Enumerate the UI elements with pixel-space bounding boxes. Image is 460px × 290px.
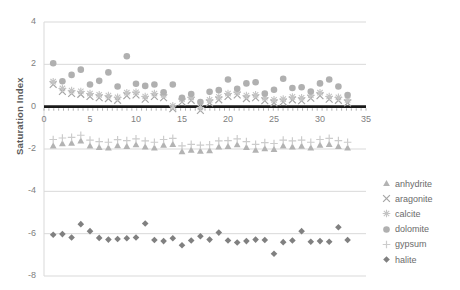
data-point bbox=[224, 137, 232, 145]
data-point bbox=[59, 85, 67, 93]
data-point bbox=[335, 137, 343, 145]
data-point bbox=[280, 75, 287, 82]
data-point bbox=[133, 234, 140, 241]
data-point bbox=[59, 134, 67, 142]
y-tick-label: -2 bbox=[14, 143, 36, 153]
data-point bbox=[252, 141, 260, 149]
legend-item-aragonite[interactable]: aragonite bbox=[380, 191, 458, 206]
data-point bbox=[289, 237, 296, 244]
data-point bbox=[335, 94, 343, 102]
data-point bbox=[271, 250, 278, 257]
data-point bbox=[344, 237, 351, 244]
legend-item-dolomite[interactable]: dolomite bbox=[380, 222, 458, 237]
data-point bbox=[160, 136, 168, 144]
data-point bbox=[308, 88, 315, 95]
data-point bbox=[124, 53, 131, 60]
data-point bbox=[114, 94, 122, 102]
y-tick-label: -4 bbox=[14, 185, 36, 195]
legend-item-label: dolomite bbox=[395, 224, 429, 234]
data-point bbox=[243, 92, 251, 100]
data-point bbox=[271, 86, 278, 93]
legend-item-label: aragonite bbox=[395, 194, 433, 204]
data-point bbox=[225, 76, 232, 83]
data-point bbox=[335, 83, 342, 90]
data-point bbox=[307, 138, 315, 146]
data-point bbox=[317, 238, 324, 245]
legend-item-label: anhydrite bbox=[395, 179, 432, 189]
data-point bbox=[132, 88, 140, 96]
data-point bbox=[326, 238, 333, 245]
data-point bbox=[78, 66, 85, 73]
series-halite bbox=[50, 220, 351, 257]
x-tick-label: 0 bbox=[33, 114, 55, 124]
x-tick-label: 10 bbox=[125, 114, 147, 124]
data-point bbox=[142, 83, 149, 90]
legend-item-gypsum[interactable]: gypsum bbox=[380, 237, 458, 252]
data-point bbox=[59, 78, 66, 85]
data-point bbox=[49, 78, 57, 86]
data-point bbox=[383, 241, 391, 249]
data-point bbox=[206, 236, 213, 243]
legend-item-anhydrite[interactable]: anhydrite bbox=[380, 176, 458, 191]
series-dolomite bbox=[50, 53, 351, 105]
data-point bbox=[59, 231, 66, 238]
data-point bbox=[187, 141, 195, 149]
data-point bbox=[160, 89, 167, 96]
data-point bbox=[289, 93, 297, 101]
data-point bbox=[216, 229, 223, 236]
data-point bbox=[308, 238, 315, 245]
data-point bbox=[243, 80, 250, 87]
data-point bbox=[114, 136, 122, 144]
chart-legend: anhydritearagonitecalcitedolomitegypsumh… bbox=[380, 176, 458, 267]
data-point bbox=[170, 81, 177, 88]
data-point bbox=[224, 90, 232, 98]
plus-icon bbox=[380, 238, 393, 251]
triangle-icon bbox=[380, 177, 393, 190]
data-point bbox=[133, 81, 140, 88]
data-point bbox=[216, 87, 223, 94]
legend-item-label: gypsum bbox=[395, 239, 427, 249]
data-point bbox=[151, 90, 159, 98]
data-point bbox=[279, 136, 287, 144]
data-point bbox=[316, 136, 324, 144]
data-point bbox=[325, 135, 333, 143]
circle-icon bbox=[380, 223, 393, 236]
x-tick-label: 30 bbox=[309, 114, 331, 124]
data-point bbox=[383, 195, 390, 202]
legend-item-halite[interactable]: halite bbox=[380, 252, 458, 267]
data-point bbox=[105, 138, 113, 146]
data-point bbox=[215, 93, 223, 101]
data-point bbox=[68, 87, 76, 95]
y-tick-label: 2 bbox=[14, 58, 36, 68]
data-point bbox=[252, 91, 260, 99]
y-tick-label: -8 bbox=[14, 270, 36, 280]
data-point bbox=[326, 76, 333, 83]
data-point bbox=[298, 84, 305, 91]
legend-item-calcite[interactable]: calcite bbox=[380, 206, 458, 221]
data-point bbox=[383, 226, 390, 233]
data-point bbox=[215, 137, 223, 145]
y-tick-label: 4 bbox=[14, 16, 36, 26]
data-point bbox=[344, 92, 351, 99]
data-point bbox=[95, 91, 103, 99]
data-point bbox=[105, 69, 112, 76]
data-point bbox=[124, 235, 131, 242]
data-point bbox=[77, 131, 85, 139]
data-point bbox=[262, 237, 269, 244]
data-point bbox=[206, 89, 213, 96]
data-point bbox=[178, 142, 186, 150]
x-tick-label: 15 bbox=[171, 114, 193, 124]
data-point bbox=[50, 231, 57, 238]
data-point bbox=[179, 242, 186, 249]
data-point bbox=[298, 94, 306, 102]
data-point bbox=[169, 102, 177, 110]
data-point bbox=[317, 80, 324, 87]
data-point bbox=[123, 137, 131, 145]
data-point bbox=[234, 239, 241, 246]
data-point bbox=[206, 141, 214, 149]
diamond-icon bbox=[380, 253, 393, 266]
data-point bbox=[114, 83, 121, 90]
data-point bbox=[243, 238, 250, 245]
y-tick-label: -6 bbox=[14, 228, 36, 238]
data-point bbox=[252, 236, 259, 243]
